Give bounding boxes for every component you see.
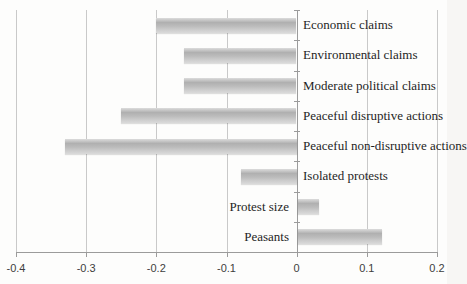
category-label-moderate-political-claims: Moderate political claims bbox=[303, 78, 436, 94]
bar-moderate-political-claims bbox=[184, 78, 296, 93]
bar-isolated-protests bbox=[241, 169, 297, 184]
x-tick-label: -0.2 bbox=[147, 262, 166, 274]
x-axis-tick bbox=[367, 253, 368, 257]
bar-peaceful-non-disruptive-actions bbox=[65, 139, 297, 154]
category-axis-tick bbox=[294, 10, 300, 11]
x-axis-tick bbox=[156, 253, 157, 257]
category-axis-tick bbox=[294, 252, 300, 253]
category-label-isolated-protests: Isolated protests bbox=[303, 168, 388, 184]
x-axis-tick bbox=[227, 253, 228, 257]
x-axis-tick bbox=[437, 253, 438, 257]
category-axis-tick bbox=[294, 40, 300, 41]
x-gridline bbox=[437, 10, 438, 252]
bar-environmental-claims bbox=[184, 48, 296, 63]
x-gridline bbox=[227, 10, 228, 252]
bar-peasants bbox=[298, 229, 382, 244]
x-gridline bbox=[156, 10, 157, 252]
x-tick-label: 0.2 bbox=[429, 262, 444, 274]
x-gridline bbox=[86, 10, 87, 252]
category-axis-tick bbox=[294, 101, 300, 102]
x-axis-tick bbox=[86, 253, 87, 257]
x-tick-label: 0 bbox=[294, 262, 300, 274]
bar-protest-size bbox=[298, 199, 319, 214]
category-label-environmental-claims: Environmental claims bbox=[303, 47, 417, 63]
x-tick-label: -0.4 bbox=[7, 262, 26, 274]
category-axis-tick bbox=[294, 161, 300, 162]
x-tick-label: 0.1 bbox=[359, 262, 374, 274]
x-gridline bbox=[16, 10, 17, 252]
bar-economic-claims bbox=[156, 18, 296, 33]
category-axis-tick bbox=[294, 222, 300, 223]
category-label-peaceful-disruptive-actions: Peaceful disruptive actions bbox=[303, 108, 443, 124]
category-axis-tick bbox=[294, 131, 300, 132]
x-tick-label: -0.3 bbox=[77, 262, 96, 274]
x-tick-label: -0.1 bbox=[217, 262, 236, 274]
category-label-peaceful-non-disruptive-actions: Peaceful non-disruptive actions bbox=[303, 138, 467, 154]
x-axis-tick bbox=[297, 253, 298, 257]
category-axis-tick bbox=[294, 71, 300, 72]
x-axis-tick bbox=[16, 253, 17, 257]
category-axis-tick bbox=[294, 192, 300, 193]
category-label-protest-size: Protest size bbox=[229, 199, 289, 215]
category-label-peasants: Peasants bbox=[244, 229, 289, 245]
category-label-economic-claims: Economic claims bbox=[303, 17, 393, 33]
bar-peaceful-disruptive-actions bbox=[121, 108, 296, 123]
